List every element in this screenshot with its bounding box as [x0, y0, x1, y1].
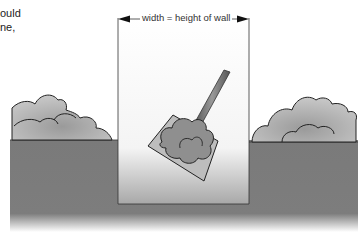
dimension-label: width = height of wall: [140, 12, 232, 23]
soil-mound-left: [12, 95, 112, 140]
pit: [118, 18, 249, 204]
pit-diagram: [0, 0, 363, 239]
soil-mound-right: [252, 97, 357, 142]
